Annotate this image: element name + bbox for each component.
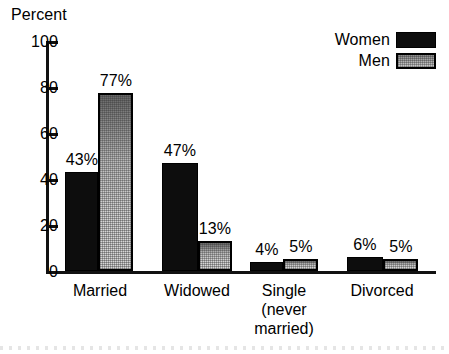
y-tick-label-40: 40 <box>10 172 58 188</box>
bar-value-single-men: 5% <box>275 239 327 255</box>
y-tick-label-80: 80 <box>10 80 58 96</box>
y-tick-label-100: 100 <box>10 34 58 50</box>
category-label-married: Married <box>45 281 155 300</box>
bar-divorced-men <box>383 259 418 271</box>
bar-single-women <box>250 262 283 271</box>
category-label-divorced: Divorced <box>327 281 437 300</box>
legend-item-men: Men <box>300 52 436 70</box>
legend-swatch-women-icon <box>396 32 436 48</box>
legend-item-women: Women <box>300 31 436 49</box>
y-tick-label-0: 0 <box>10 264 58 280</box>
bar-single-men <box>283 259 318 271</box>
legend-swatch-men-icon <box>396 53 436 69</box>
bar-value-widowed-men: 13% <box>189 221 241 237</box>
y-axis-line <box>46 41 49 274</box>
bar-widowed-women <box>162 163 198 271</box>
legend-label-men: Men <box>359 52 390 70</box>
x-axis-line <box>46 271 436 274</box>
y-axis-title: Percent <box>11 6 67 24</box>
bar-value-married-men: 77% <box>90 73 142 89</box>
bar-widowed-men <box>198 241 232 271</box>
bar-value-divorced-men: 5% <box>375 239 427 255</box>
bar-chart: Percent 100 80 60 40 20 0 43% 77% Marrie… <box>0 0 449 354</box>
bar-value-widowed-women: 47% <box>154 143 206 159</box>
bar-married-men <box>98 93 133 271</box>
y-tick-label-20: 20 <box>10 218 58 234</box>
bar-married-women <box>65 172 98 271</box>
scan-artifact <box>0 346 449 350</box>
bar-divorced-women <box>347 257 383 271</box>
legend-label-women: Women <box>335 31 390 49</box>
y-tick-label-60: 60 <box>10 126 58 142</box>
category-label-single: Single (never married) <box>229 281 339 338</box>
